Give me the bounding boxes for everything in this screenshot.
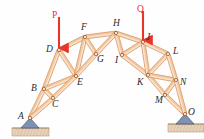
ground-fill-o: [168, 124, 204, 132]
joint-marker: [183, 112, 186, 115]
joint-a: [28, 116, 31, 119]
joint-label-l: L: [173, 47, 178, 57]
load-label-q: Q: [137, 5, 144, 15]
joint-label-k: K: [137, 78, 143, 88]
joint-marker: [146, 73, 149, 76]
joint-k: [146, 73, 149, 76]
joint-o: [183, 112, 186, 115]
joint-label-c: C: [52, 100, 58, 110]
joint-marker: [141, 40, 144, 43]
joint-marker: [174, 78, 177, 81]
joint-i: [120, 53, 123, 56]
ground-layer: [12, 124, 204, 136]
joint-marker: [28, 116, 31, 119]
joint-label-f: F: [81, 23, 87, 33]
joint-marker: [163, 93, 166, 96]
joint-marker: [57, 48, 60, 51]
joint-h: [114, 31, 117, 34]
joint-label-b: B: [31, 84, 37, 94]
truss-diagram: ABCDEFGHIJKLMNOPQ: [0, 0, 204, 139]
joint-b: [42, 87, 45, 90]
joint-label-e: E: [77, 78, 83, 88]
joint-l: [166, 52, 169, 55]
joint-label-d: D: [46, 45, 53, 55]
joint-label-i: I: [115, 56, 118, 66]
joint-marker: [166, 52, 169, 55]
member-highlight: [149, 55, 169, 76]
joint-label-j: J: [146, 33, 150, 43]
joint-n: [174, 78, 177, 81]
member-KL: [147, 53, 170, 77]
joint-m: [163, 93, 166, 96]
joint-marker: [83, 35, 86, 38]
joint-marker: [120, 53, 123, 56]
member-highlight: [122, 43, 143, 56]
truss-drawing-canvas: [0, 0, 204, 139]
joint-label-n: N: [180, 78, 186, 88]
joint-label-h: H: [113, 19, 120, 29]
member-body: [147, 53, 170, 77]
joint-label-g: G: [97, 55, 104, 65]
joint-marker: [114, 31, 117, 34]
joint-label-o: O: [188, 108, 195, 118]
joint-d: [57, 48, 60, 51]
joint-marker: [42, 87, 45, 90]
joint-f: [83, 35, 86, 38]
ground-block-a: [12, 128, 49, 136]
ground-block-o: [168, 124, 204, 132]
joint-label-a: A: [18, 112, 24, 122]
load-label-p: P: [52, 11, 57, 21]
member-highlight: [84, 37, 95, 54]
member-highlight: [58, 50, 75, 76]
joint-j: [141, 40, 144, 43]
joint-label-m: M: [155, 96, 163, 106]
